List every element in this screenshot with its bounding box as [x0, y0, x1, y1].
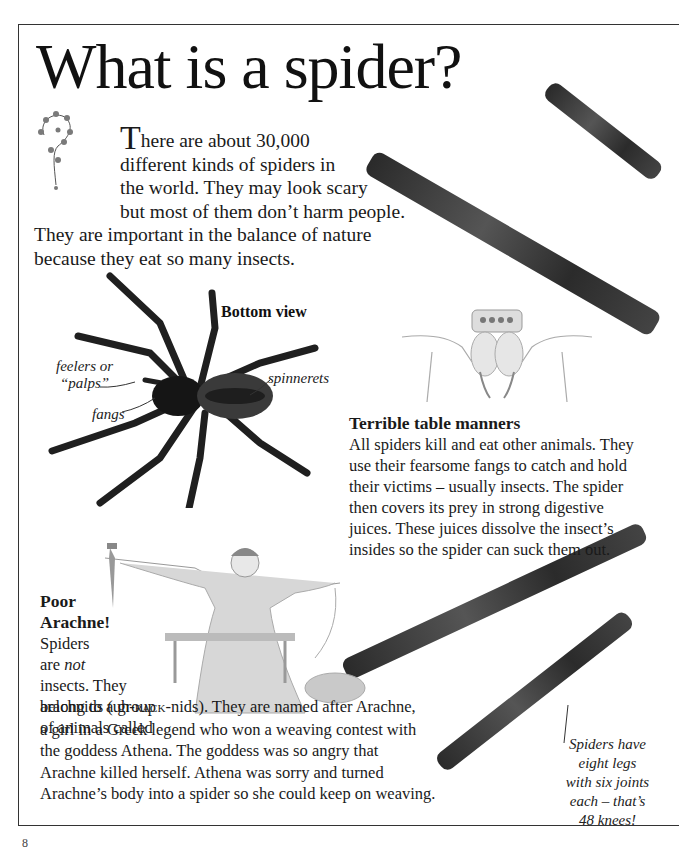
table-manners-section: Terrible table manners All spiders kill … [349, 413, 649, 560]
body-line: their victims – usually insects. The spi… [349, 476, 649, 497]
arachne-continued: arachnids (uh-rack-nids). They are named… [40, 696, 435, 805]
body-line: then covers its prey in strong digestive [349, 497, 649, 518]
page-title: What is a spider? [36, 30, 462, 104]
body-text: are [40, 655, 64, 674]
arachne-heading: Arachne! [40, 612, 156, 633]
body-line: All spiders kill and eat other animals. … [349, 434, 649, 455]
body-line: use their fearsome fangs to catch and ho… [349, 455, 649, 476]
body-line: are not [40, 654, 156, 675]
body-line: Spiders [40, 633, 156, 654]
body-line: juices. These juices dissolve the insect… [349, 518, 649, 539]
label-pointer-lines [100, 370, 300, 420]
body-line: the goddess Athena. The goddess was so a… [40, 740, 435, 762]
body-text: arachnids (uh- [40, 697, 135, 716]
body-line: insides so the spider can suck them out. [349, 539, 649, 560]
emphasis-not: not [64, 655, 85, 674]
intro-line: different kinds of spiders in [40, 153, 440, 177]
body-line: insects. They [40, 675, 156, 696]
bottom-view-heading: Bottom view [221, 303, 307, 321]
caption-line: each – that’s [560, 792, 655, 811]
intro-line: They are important in the balance of nat… [34, 223, 440, 247]
intro-line: because they eat so many insects. [34, 247, 440, 271]
caption-line: 48 knees! [560, 811, 655, 830]
caption-line: Spiders have [560, 735, 655, 754]
arachne-heading: Poor [40, 591, 156, 612]
body-line: Arachne’s body into a spider so she coul… [40, 783, 435, 805]
page-number: 8 [22, 836, 28, 849]
intro-paragraph: There are about 30,000 different kinds o… [40, 128, 440, 270]
intro-line: but most of them don’t harm people. [40, 200, 440, 224]
spider-face-drawing [392, 292, 602, 412]
drop-cap: T [120, 119, 141, 156]
table-manners-heading: Terrible table manners [349, 413, 649, 434]
body-line: a girl in a Greek legend who won a weavi… [40, 719, 435, 741]
intro-line: here are about 30,000 [141, 130, 310, 151]
body-text: -nids). They are named after Arachne, [165, 697, 415, 716]
body-line: arachnids (uh-rack-nids). They are named… [40, 696, 435, 719]
caption-line: eight legs [560, 754, 655, 773]
body-line: Arachne killed herself. Athena was sorry… [40, 762, 435, 784]
leg-caption: Spiders have eight legs with six joints … [560, 735, 655, 830]
pronunciation-stress: rack [135, 699, 166, 715]
caption-line: with six joints [560, 773, 655, 792]
intro-line: the world. They may look scary [40, 176, 440, 200]
